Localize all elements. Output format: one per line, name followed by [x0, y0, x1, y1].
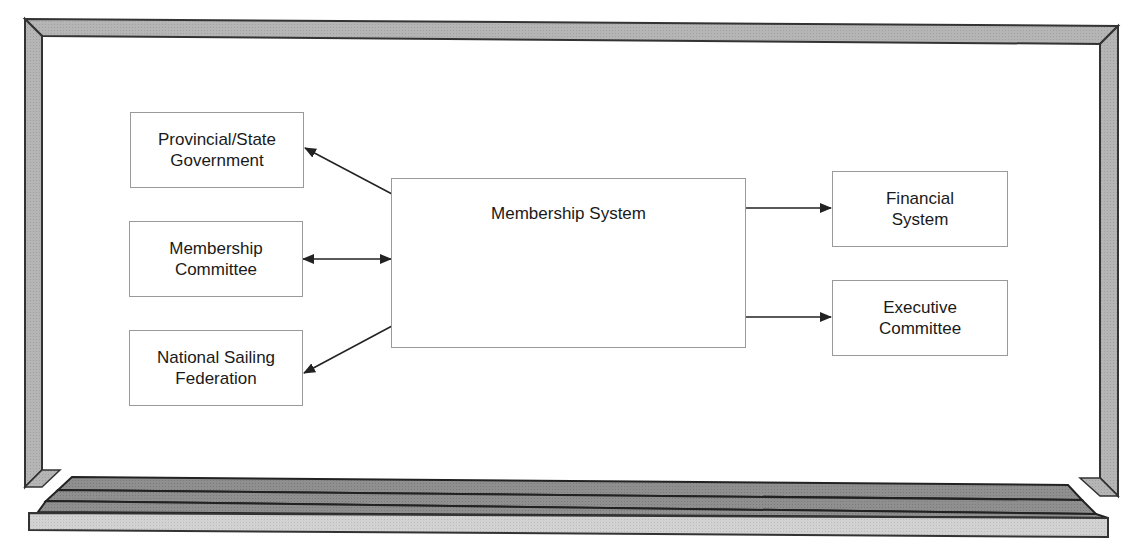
executive-committee-box: Executive Committee — [832, 280, 1008, 356]
provincial-government-label: Provincial/State Government — [158, 129, 276, 171]
financial-system-label: Financial System — [886, 188, 954, 230]
arrow-to-provincial — [305, 148, 392, 194]
executive-committee-label: Executive Committee — [879, 297, 961, 339]
national-sailing-federation-box: National Sailing Federation — [129, 330, 303, 406]
arrow-to-federation — [304, 326, 392, 373]
national-sailing-federation-label: National Sailing Federation — [157, 347, 275, 389]
frame-left — [25, 19, 42, 487]
frame-right — [1100, 26, 1118, 496]
marker-tray — [29, 477, 1108, 537]
membership-committee-label: Membership Committee — [169, 238, 263, 280]
frame-top — [25, 19, 1118, 44]
membership-system-label: Membership System — [491, 203, 646, 224]
membership-system-box: Membership System — [391, 178, 746, 348]
provincial-government-box: Provincial/State Government — [130, 112, 304, 188]
financial-system-box: Financial System — [832, 171, 1008, 247]
membership-committee-box: Membership Committee — [129, 221, 303, 297]
